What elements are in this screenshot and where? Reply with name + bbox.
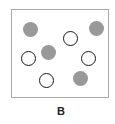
open-circle-icon xyxy=(81,51,96,66)
filled-circle-icon xyxy=(89,21,104,36)
open-circle-icon xyxy=(63,31,78,46)
open-circle-icon xyxy=(21,51,36,66)
filled-circle-icon xyxy=(41,45,56,60)
filled-circle-icon xyxy=(23,22,38,37)
open-circle-icon xyxy=(39,73,54,88)
filled-circle-icon xyxy=(73,71,88,86)
diagram-label: B xyxy=(0,104,115,118)
